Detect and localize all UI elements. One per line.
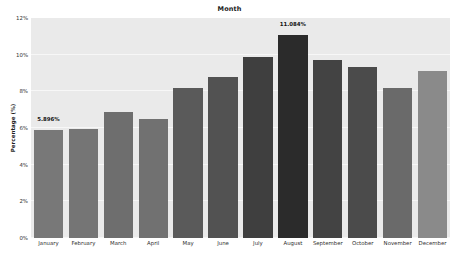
y-tick-label: 0% xyxy=(2,235,28,241)
bar-slot xyxy=(380,18,415,238)
bar-slot xyxy=(415,18,450,238)
x-tick-label: September xyxy=(313,240,343,246)
plot-area: 5.896%11.084% xyxy=(31,18,450,238)
bar[interactable] xyxy=(243,57,272,239)
x-tick-label: October xyxy=(352,240,374,246)
x-tick-label: August xyxy=(283,240,302,246)
bar-series: 5.896%11.084% xyxy=(31,18,450,238)
bar[interactable] xyxy=(383,88,412,238)
x-tick-label: June xyxy=(217,240,229,246)
bar[interactable] xyxy=(418,71,447,238)
y-tick-label: 8% xyxy=(2,88,28,94)
bar-slot xyxy=(66,18,101,238)
bar-slot xyxy=(101,18,136,238)
bar[interactable] xyxy=(173,88,202,238)
y-tick-label: 2% xyxy=(2,198,28,204)
x-tick-label: March xyxy=(110,240,126,246)
x-axis-tick-labels: JanuaryFebruaryMarchAprilMayJuneJulyAugu… xyxy=(31,240,450,256)
x-tick-label: May xyxy=(183,240,194,246)
x-tick-label: December xyxy=(419,240,447,246)
bar[interactable] xyxy=(278,35,307,238)
bar-slot: 11.084% xyxy=(275,18,310,238)
bar-slot xyxy=(241,18,276,238)
bar[interactable] xyxy=(313,60,342,238)
bar-slot xyxy=(136,18,171,238)
x-tick-label: January xyxy=(38,240,58,246)
y-tick-label: 4% xyxy=(2,162,28,168)
x-tick-label: November xyxy=(384,240,412,246)
bar-slot xyxy=(206,18,241,238)
y-axis-tick-labels: 0%2%4%6%8%10%12% xyxy=(0,18,28,238)
bar[interactable] xyxy=(34,130,63,238)
chart-title: Month xyxy=(0,5,459,13)
bar-value-label: 5.896% xyxy=(37,116,59,123)
bar-slot: 5.896% xyxy=(31,18,66,238)
bar[interactable] xyxy=(348,67,377,238)
y-tick-label: 10% xyxy=(2,52,28,58)
bar-slot xyxy=(345,18,380,238)
bar-chart-figure: Month Percentage (%) 0%2%4%6%8%10%12% 5.… xyxy=(0,0,459,268)
bar[interactable] xyxy=(104,112,133,239)
bar[interactable] xyxy=(208,77,237,238)
bar-value-label: 11.084% xyxy=(280,21,306,28)
bar-slot xyxy=(310,18,345,238)
y-tick-label: 12% xyxy=(2,15,28,21)
x-tick-label: February xyxy=(71,240,95,246)
bar[interactable] xyxy=(69,129,98,238)
bar[interactable] xyxy=(139,119,168,238)
x-tick-label: July xyxy=(253,240,263,246)
y-tick-label: 6% xyxy=(2,125,28,131)
x-tick-label: April xyxy=(147,240,159,246)
bar-slot xyxy=(171,18,206,238)
